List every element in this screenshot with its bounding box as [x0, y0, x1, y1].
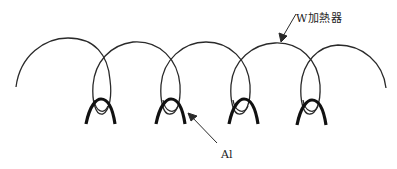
- leader-arrows: [188, 14, 296, 143]
- al-charge-4: [297, 100, 326, 125]
- heater-label: W加熱器: [296, 9, 342, 25]
- diagram-canvas: [0, 0, 397, 169]
- al-arrowhead: [188, 113, 197, 121]
- al-leader-line: [191, 116, 217, 143]
- tungsten-heater-coil: [16, 38, 386, 114]
- heater-arrowhead: [279, 33, 287, 42]
- coil-arc-end: [301, 45, 386, 114]
- coil-loop-1: [93, 42, 180, 114]
- aluminum-charges: [86, 99, 326, 125]
- aluminum-label: Al: [221, 148, 232, 161]
